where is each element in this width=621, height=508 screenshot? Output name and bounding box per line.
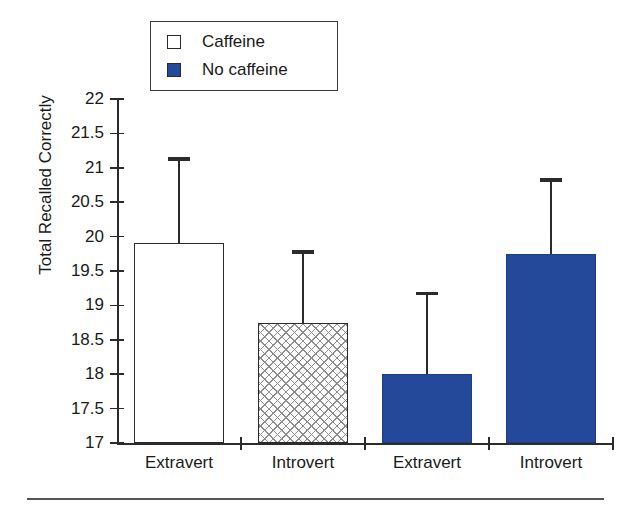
y-axis-tick-label: 22 bbox=[44, 89, 104, 109]
x-axis-tick bbox=[612, 437, 614, 450]
error-bar-cap bbox=[416, 292, 438, 295]
x-axis-tick bbox=[364, 437, 366, 450]
legend-label-no-caffeine: No caffeine bbox=[202, 60, 288, 80]
y-axis-tick bbox=[110, 201, 124, 203]
legend-swatch-white-icon bbox=[167, 35, 181, 49]
bar-no-caffeine-introvert bbox=[506, 254, 596, 443]
y-axis-tick-label: 20.5 bbox=[44, 192, 104, 212]
cropped-top-text: · · · · · · · · · · · · · · · · · · · · … bbox=[108, 0, 528, 5]
chart-legend: Caffeine No caffeine bbox=[150, 21, 338, 91]
y-axis-tick-label: 17 bbox=[44, 433, 104, 453]
legend-label-caffeine: Caffeine bbox=[202, 32, 265, 52]
y-axis-tick bbox=[110, 270, 124, 272]
bar-caffeine-extravert bbox=[134, 243, 224, 443]
error-bar-stem bbox=[302, 250, 304, 322]
bar-no-caffeine-extravert bbox=[382, 374, 472, 443]
bar-chart-figure: · · · · · · · · · · · · · · · · · · · · … bbox=[0, 0, 621, 508]
x-axis-label: Extravert bbox=[145, 453, 213, 473]
y-axis-tick-label: 19 bbox=[44, 295, 104, 315]
y-axis-tick-label: 18.5 bbox=[44, 330, 104, 350]
y-axis-tick-label: 21 bbox=[44, 158, 104, 178]
x-axis-label: Introvert bbox=[520, 453, 582, 473]
y-axis-tick-label: 21.5 bbox=[44, 123, 104, 143]
y-axis-tick bbox=[110, 236, 124, 238]
error-bar-stem bbox=[178, 157, 180, 243]
error-bar-cap bbox=[168, 157, 190, 160]
legend-swatch-blue-icon bbox=[167, 63, 181, 77]
y-axis-tick bbox=[110, 339, 124, 341]
x-axis-tick bbox=[240, 437, 242, 450]
y-axis-tick bbox=[110, 442, 124, 444]
y-axis-tick bbox=[110, 373, 124, 375]
error-bar-stem bbox=[550, 178, 552, 254]
y-axis-tick-label: 18 bbox=[44, 364, 104, 384]
legend-item-caffeine: Caffeine bbox=[167, 28, 265, 56]
y-axis-tick-label: 19.5 bbox=[44, 261, 104, 281]
y-axis-tick-label: 20 bbox=[44, 227, 104, 247]
bar-caffeine-introvert bbox=[258, 323, 348, 443]
legend-item-no-caffeine: No caffeine bbox=[167, 56, 288, 84]
y-axis-tick bbox=[110, 167, 124, 169]
error-bar-cap bbox=[540, 178, 562, 181]
y-axis-tick bbox=[110, 133, 124, 135]
error-bar-stem bbox=[426, 292, 428, 375]
x-axis-label: Introvert bbox=[272, 453, 334, 473]
y-axis-tick-label: 17.5 bbox=[44, 399, 104, 419]
y-axis-tick bbox=[110, 408, 124, 410]
page-divider-rule bbox=[27, 498, 604, 500]
x-axis-label: Extravert bbox=[393, 453, 461, 473]
x-axis-tick bbox=[488, 437, 490, 450]
y-axis-tick bbox=[110, 305, 124, 307]
y-axis-tick bbox=[110, 98, 124, 100]
error-bar-cap bbox=[292, 250, 314, 253]
